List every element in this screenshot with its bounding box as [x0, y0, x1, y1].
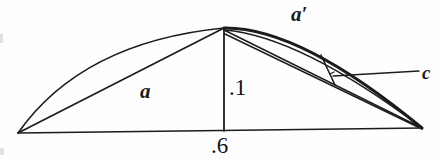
right-angle-mark — [330, 72, 334, 74]
label-arc-left-a: a — [140, 81, 151, 102]
right-chord-aprime — [224, 30, 422, 128]
right-lower-line — [225, 34, 422, 129]
diagram-canvas: a a′ c .1 .6 — [0, 0, 442, 159]
label-height-value: .1 — [229, 76, 246, 99]
label-arc-right-a-prime: a′ — [291, 4, 307, 25]
left-chord-a — [18, 28, 224, 133]
perpendicular-segment-c — [321, 55, 335, 85]
label-perpendicular-c: c — [422, 63, 430, 82]
label-base-value: .6 — [211, 134, 228, 157]
